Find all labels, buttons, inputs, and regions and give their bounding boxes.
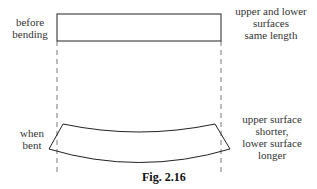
label-line: same length — [226, 29, 316, 41]
label-same-length: upper and lower surfaces same length — [226, 5, 316, 41]
label-before-bending: before bending — [8, 16, 52, 40]
label-line: before — [8, 16, 52, 28]
label-line: bending — [8, 28, 52, 40]
bent-beam — [49, 124, 230, 163]
straight-beam — [57, 14, 221, 41]
label-line: when — [12, 127, 52, 139]
label-line: upper and lower — [226, 5, 316, 17]
label-line: surfaces — [226, 17, 316, 29]
label-upper-shorter-lower-longer: upper surface shorter, lower surface lon… — [230, 113, 314, 161]
label-line: bent — [12, 139, 52, 151]
label-when-bent: when bent — [12, 127, 52, 151]
label-line: longer — [230, 149, 314, 161]
label-line: lower surface — [230, 137, 314, 149]
label-line: shorter, — [230, 125, 314, 137]
figure-caption: Fig. 2.16 — [142, 170, 186, 185]
label-line: upper surface — [230, 113, 314, 125]
